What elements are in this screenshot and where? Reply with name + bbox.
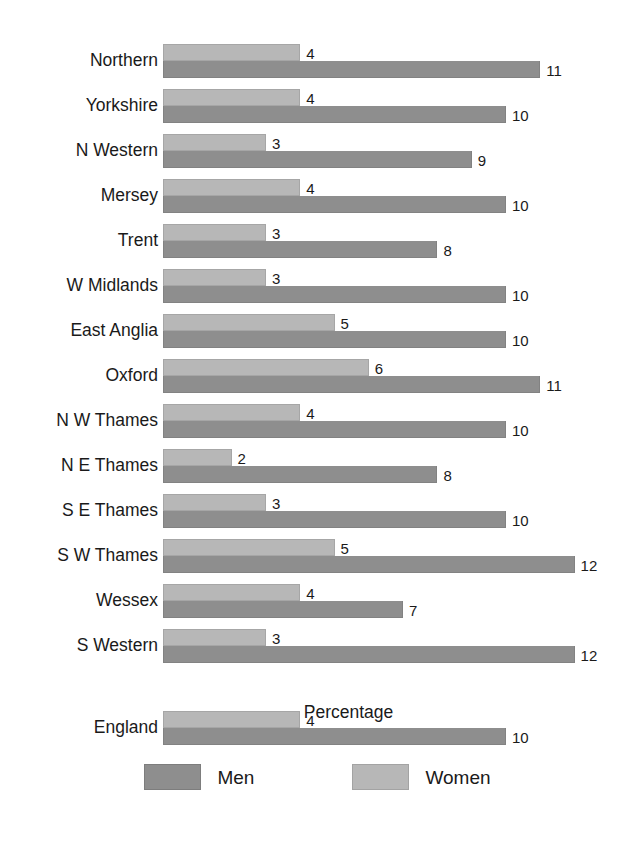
legend-swatch-men-icon [144,764,201,790]
legend-item-women: Women [352,764,490,790]
bar-fill-men [163,601,403,618]
bar-value-women: 3 [266,225,280,240]
bar-fill-women [163,494,266,511]
bar-fill-women [163,89,300,106]
bar-fill-men [163,196,506,213]
category-label: Northern [90,52,158,70]
bar-fill-women [163,629,266,646]
bar-value-men: 10 [506,729,529,744]
bar-value-men: 10 [506,197,529,212]
bar-value-women: 4 [300,585,314,600]
category-label: S E Thames [62,502,158,520]
bar-value-men: 8 [437,242,451,257]
bar-fill-men [163,106,506,123]
bar-value-men: 11 [540,62,562,77]
chart-rows: Northern411Yorkshire410N Western39Mersey… [0,38,635,750]
category-label: S Western [77,637,158,655]
bar-value-women: 4 [300,180,314,195]
x-axis-title-label: Percentage [304,702,394,723]
bar-fill-men [163,728,506,745]
bar-fill-women [163,539,335,556]
x-axis-title: Percentage [0,702,635,723]
legend-label-men: Men [217,768,254,787]
bar-fill-men [163,331,506,348]
bar-value-men: 10 [506,287,529,302]
category-label: East Anglia [70,322,158,340]
bar-fill-men [163,376,540,393]
category-label: W Midlands [67,277,158,295]
bar-fill-men [163,286,506,303]
bar-fill-women [163,314,335,331]
bar-value-women: 4 [300,45,314,60]
chart-row: W Midlands310 [0,263,635,308]
bar-fill-men [163,421,506,438]
bar-fill-men [163,556,575,573]
bar-value-women: 5 [335,540,349,555]
chart-row: S E Thames310 [0,488,635,533]
bar-fill-women [163,224,266,241]
bar-fill-men [163,466,437,483]
bar-value-men: 10 [506,332,529,347]
bar-fill-men [163,511,506,528]
category-label: Yorkshire [86,97,158,115]
category-label: S W Thames [57,547,158,565]
chart-row: Northern411 [0,38,635,83]
chart-row: Trent38 [0,218,635,263]
category-label: N Western [76,142,158,160]
legend-label-women: Women [425,768,490,787]
chart-row: N E Thames28 [0,443,635,488]
bar-fill-women [163,359,369,376]
chart-row: N W Thames410 [0,398,635,443]
bar-fill-women [163,44,300,61]
bar-value-women: 6 [369,360,383,375]
bar-value-women: 3 [266,270,280,285]
legend-item-men: Men [144,764,254,790]
bar-value-men: 9 [472,152,486,167]
category-label: Trent [118,232,158,250]
chart-row: Wessex47 [0,578,635,623]
bar-value-men: 10 [506,422,529,437]
category-label: N W Thames [56,412,158,430]
chart-row: East Anglia510 [0,308,635,353]
chart-row: S Western312 [0,623,635,668]
bar-fill-women [163,269,266,286]
bar-value-men: 8 [437,467,451,482]
bar-value-men: 12 [575,647,598,662]
chart-row: S W Thames512 [0,533,635,578]
category-label: Wessex [96,592,158,610]
chart-row: Oxford611 [0,353,635,398]
category-label: N E Thames [61,457,158,475]
bar-value-men: 11 [540,377,562,392]
chart-legend: Men Women [0,764,635,790]
bar-fill-women [163,449,232,466]
bar-value-women: 2 [232,450,246,465]
category-label: Mersey [101,187,158,205]
bar-fill-women [163,584,300,601]
category-label: Oxford [105,367,158,385]
bar-fill-men [163,151,472,168]
bar-fill-men [163,646,575,663]
bar-value-women: 4 [300,90,314,105]
legend-swatch-women-icon [352,764,409,790]
bar-chart: Northern411Yorkshire410N Western39Mersey… [0,0,635,844]
bar-fill-women [163,134,266,151]
bar-value-women: 4 [300,405,314,420]
row-spacer [0,668,635,705]
chart-row: Mersey410 [0,173,635,218]
bar-value-women: 3 [266,495,280,510]
bar-value-women: 3 [266,630,280,645]
bar-value-women: 3 [266,135,280,150]
bar-value-men: 7 [403,602,417,617]
bar-value-men: 12 [575,557,598,572]
bar-fill-men [163,241,437,258]
bar-fill-women [163,179,300,196]
bar-value-men: 10 [506,107,529,122]
chart-row: N Western39 [0,128,635,173]
bar-value-women: 5 [335,315,349,330]
bar-fill-men [163,61,540,78]
bar-fill-women [163,404,300,421]
chart-row: Yorkshire410 [0,83,635,128]
bar-value-men: 10 [506,512,529,527]
